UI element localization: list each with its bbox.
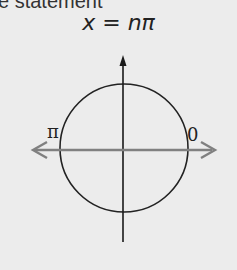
vertical-axis-arrow-icon xyxy=(120,55,127,66)
label-pi: π xyxy=(47,121,59,142)
label-zero: 0 xyxy=(187,124,198,145)
unit-circle xyxy=(60,84,188,212)
unit-circle-diagram xyxy=(0,0,237,270)
